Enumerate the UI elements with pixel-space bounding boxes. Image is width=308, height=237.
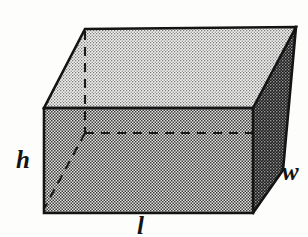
front-face xyxy=(44,108,253,213)
length-label: l xyxy=(137,213,144,237)
height-label: h xyxy=(16,147,30,172)
figure-container: h w l xyxy=(0,0,308,237)
prism-faces xyxy=(44,27,296,213)
rectangular-prism-svg xyxy=(0,0,308,237)
width-label: w xyxy=(282,159,299,184)
